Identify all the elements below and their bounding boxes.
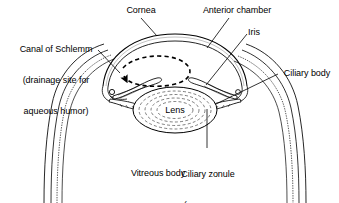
label-vitreous-body: Vitreous body [123,168,193,178]
cornea-stroma-line [106,37,244,86]
label-lens: Lens [158,105,192,115]
label-cornea: Cornea [112,5,170,15]
cornea-inner-surface [108,41,242,87]
label-canal-of-schlemm-line3: aqueous humor) [4,106,108,116]
label-anterior-chamber: Anterior chamber [191,5,283,15]
label-canal-of-schlemm: Canal of Schlemm (drainage site for aque… [4,23,108,137]
label-iris: Iris [240,27,268,37]
label-ciliary-body: Ciliary body [277,68,337,78]
canal-of-schlemm-marker [109,89,114,94]
label-ciliary-zonule-line2: (suspensory [166,200,250,203]
label-canal-of-schlemm-line2: (drainage site for [4,75,108,85]
label-canal-of-schlemm-line1: Canal of Schlemm [4,44,108,54]
eye-anatomy-diagram: Canal of Schlemm (drainage site for aque… [0,0,339,203]
leader-cornea [141,18,157,36]
